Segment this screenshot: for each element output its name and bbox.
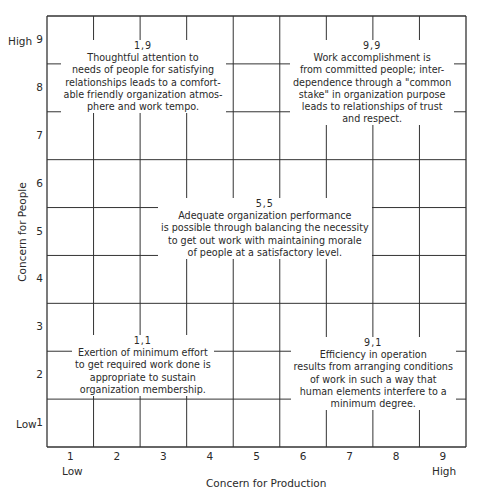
style-coord: 9,9: [293, 40, 451, 52]
x-tick-label: 3: [153, 451, 173, 462]
y-tick-label: 1: [27, 417, 43, 428]
style-block-9-9: 9,9 Work accomplishment is from committe…: [290, 40, 454, 125]
style-text-line: Thoughtful attention to: [64, 52, 223, 64]
y-tick-label: 2: [27, 369, 43, 380]
x-tick-label: 4: [200, 451, 220, 462]
x-axis-label: Concern for Production: [206, 478, 326, 489]
style-text-line: is possible through balancing the necess…: [161, 222, 369, 234]
style-text-line: relationships leads to a comfort-: [64, 77, 223, 89]
style-text-line: Adequate organization performance: [161, 210, 369, 222]
style-text-line: phere and work tempo.: [64, 101, 223, 113]
y-tick-label: 9: [27, 34, 43, 45]
y-tick-label: 7: [27, 130, 43, 141]
style-coord: 9,1: [294, 337, 453, 349]
style-text-line: Work accomplishment is: [293, 52, 451, 64]
style-text-line: stake" in organization purpose: [293, 89, 451, 101]
x-tick-label: 7: [340, 451, 360, 462]
style-text-line: of people at a satisfactory level.: [161, 247, 369, 259]
style-text-line: able friendly organization atmos-: [64, 89, 223, 101]
y-tick-label: 5: [27, 226, 43, 237]
x-tick-label: 6: [293, 451, 313, 462]
style-text-line: needs of people for satisfying: [64, 64, 223, 76]
style-coord: 5,5: [161, 198, 369, 210]
style-block-5-5: 5,5 Adequate organization performance is…: [158, 198, 372, 259]
style-text-line: from committed people; inter-: [293, 64, 451, 76]
style-text-line: to get required work done is: [75, 359, 211, 371]
style-text-line: appropriate to sustain: [75, 372, 211, 384]
style-text-line: results from arranging conditions: [294, 361, 453, 373]
style-text-line: Efficiency in operation: [294, 349, 453, 361]
x-axis-low-label: Low: [62, 466, 83, 477]
style-coord: 1,1: [75, 335, 211, 347]
style-block-9-1: 9,1 Efficiency in operation results from…: [291, 337, 456, 410]
style-text-line: minimum degree.: [294, 398, 453, 410]
style-text-line: and respect.: [293, 113, 451, 125]
y-tick-label: 8: [27, 82, 43, 93]
x-tick-label: 5: [247, 451, 267, 462]
y-tick-label: 3: [27, 321, 43, 332]
y-tick-label: 6: [27, 178, 43, 189]
style-text-line: to get out work with maintaining morale: [161, 235, 369, 247]
x-tick-label: 2: [107, 451, 127, 462]
style-text-line: Exertion of minimum effort: [75, 347, 211, 359]
style-text-line: dependence through a "common: [293, 77, 451, 89]
x-tick-label: 1: [60, 451, 80, 462]
style-coord: 1,9: [64, 40, 223, 52]
style-block-1-9: 1,9 Thoughtful attention to needs of peo…: [61, 40, 226, 113]
y-tick-label: 4: [27, 273, 43, 284]
style-block-1-1: 1,1 Exertion of minimum effort to get re…: [72, 335, 214, 396]
x-tick-label: 8: [386, 451, 406, 462]
x-tick-label: 9: [433, 451, 453, 462]
style-text-line: organization membership.: [75, 384, 211, 396]
style-text-line: of work in such a way that: [294, 374, 453, 386]
x-axis-high-label: High: [432, 466, 456, 477]
style-text-line: human elements interfere to a: [294, 386, 453, 398]
style-text-line: leads to relationships of trust: [293, 101, 451, 113]
